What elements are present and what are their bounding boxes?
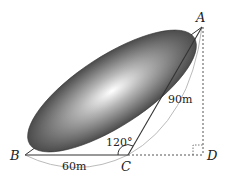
length-label-ac: 90m [168,93,193,106]
point-label-b: B [9,148,20,163]
point-label-d: D [206,148,218,163]
right-angle-marker [193,145,203,155]
angle-label-c: 120° [106,136,133,149]
point-label-c: C [121,159,131,174]
diagram-canvas: A B C D 90m 60m 120° [0,0,227,187]
length-label-bc: 60m [62,160,87,173]
point-label-a: A [195,10,205,25]
